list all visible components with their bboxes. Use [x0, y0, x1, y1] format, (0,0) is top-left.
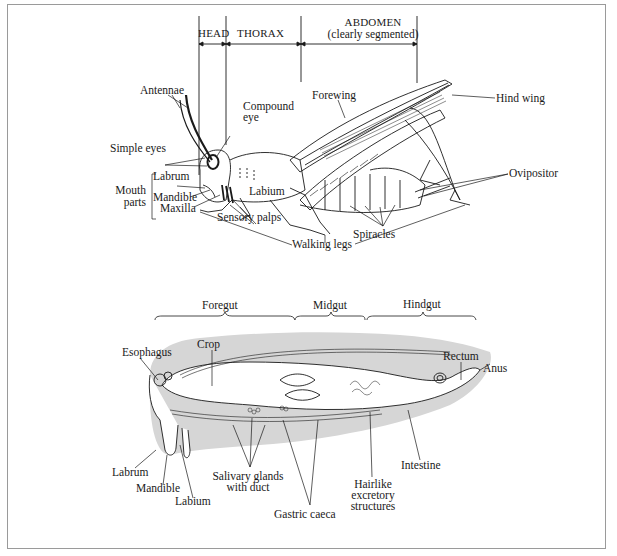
region-abdomen: ABDOMEN	[333, 16, 413, 28]
label-ovipositor: Ovipositor	[509, 167, 558, 179]
grasshopper-internal	[149, 332, 491, 458]
label-hairlike-excretory-3: structures	[343, 500, 403, 512]
label-mouth-parts: Mouth	[108, 184, 146, 196]
label-mouth-parts-2: parts	[108, 196, 146, 208]
region-head: HEAD	[198, 27, 229, 39]
label-labium-internal: Labium	[175, 495, 211, 507]
label-gastric-caeca: Gastric caeca	[274, 508, 336, 520]
label-labrum: Labrum	[153, 170, 189, 182]
label-maxilla: Maxilla	[160, 202, 196, 214]
label-simple-eyes: Simple eyes	[110, 142, 166, 154]
label-rectum: Rectum	[443, 350, 479, 362]
label-esophagus: Esophagus	[122, 346, 172, 358]
label-salivary-glands-2: with duct	[208, 481, 288, 493]
label-compound-eye-2: eye	[243, 111, 259, 123]
anatomy-illustration	[0, 0, 617, 556]
label-forewing: Forewing	[312, 89, 356, 101]
label-crop: Crop	[197, 338, 220, 350]
region-midgut: Midgut	[313, 299, 347, 311]
region-thorax: THORAX	[237, 27, 284, 39]
region-foregut: Foregut	[202, 299, 238, 311]
label-labium: Labium	[249, 185, 285, 197]
label-anus: Anus	[483, 362, 507, 374]
gut-region-braces	[155, 312, 476, 320]
top-leader-lines	[152, 95, 508, 245]
label-sensory-palps: Sensory palps	[217, 211, 281, 223]
label-mandible-internal: Mandible	[136, 482, 180, 494]
label-walking-legs: Walking legs	[292, 238, 352, 250]
label-hind-wing: Hind wing	[496, 92, 545, 104]
label-labrum-internal: Labrum	[112, 466, 148, 478]
label-spiracles: Spiracles	[353, 228, 395, 240]
label-antennae: Antennae	[140, 84, 184, 96]
region-hindgut: Hindgut	[403, 298, 441, 310]
label-intestine: Intestine	[401, 459, 441, 471]
region-abdomen-note: (clearly segmented)	[313, 28, 433, 40]
